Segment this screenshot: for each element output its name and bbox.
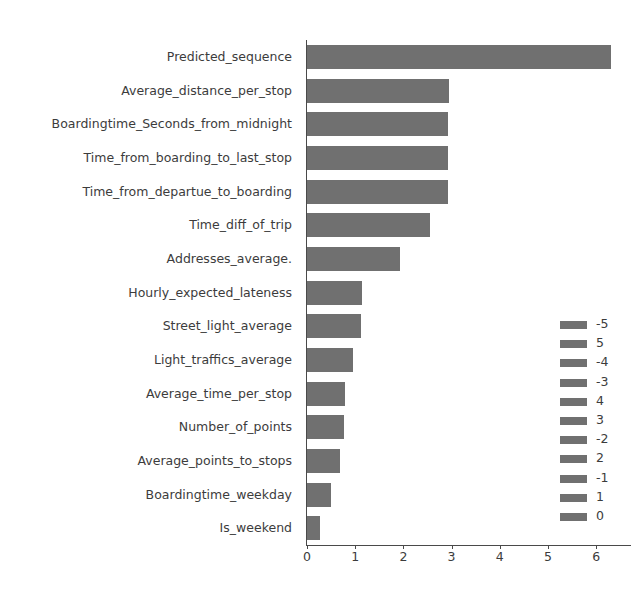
legend-label: -2 <box>596 432 608 446</box>
bar-row <box>307 40 611 74</box>
bar-chart-figure: Predicted_sequenceAverage_distance_per_s… <box>0 0 640 596</box>
category-label: Addresses_average. <box>167 253 292 266</box>
category-label: Boardingtime_Seconds_from_midnight <box>52 118 292 131</box>
bar <box>307 516 320 540</box>
bar <box>307 314 361 338</box>
x-tick-label: 0 <box>303 551 311 564</box>
bar <box>307 79 449 103</box>
legend-swatch <box>560 513 587 521</box>
legend-swatch <box>560 359 587 367</box>
bar <box>307 45 611 69</box>
category-label: Average_time_per_stop <box>146 388 292 401</box>
legend-label: -4 <box>596 355 608 369</box>
bar-row <box>307 175 611 209</box>
legend-item: 4 <box>560 394 634 413</box>
legend-label: 1 <box>596 490 604 504</box>
legend-item: 2 <box>560 451 634 470</box>
legend-label: 5 <box>596 336 604 350</box>
legend-item: 1 <box>560 490 634 509</box>
category-label: Light_traffics_average <box>154 354 292 367</box>
x-axis-ticks: 0123456 <box>0 545 640 571</box>
bar <box>307 146 448 170</box>
category-label: Street_light_average <box>163 320 292 333</box>
legend-swatch <box>560 494 587 502</box>
legend-swatch <box>560 436 587 444</box>
bar-row <box>307 242 611 276</box>
bar-row <box>307 74 611 108</box>
legend-swatch <box>560 398 587 406</box>
bar <box>307 348 353 372</box>
x-tick-label: 4 <box>496 551 504 564</box>
bar-row <box>307 107 611 141</box>
category-label: Is_weekend <box>220 522 292 535</box>
legend-item: -2 <box>560 432 634 451</box>
bar <box>307 180 448 204</box>
bar-row <box>307 208 611 242</box>
category-label: Boardingtime_weekday <box>146 489 292 502</box>
x-tick-label: 2 <box>399 551 407 564</box>
bar-row <box>307 141 611 175</box>
legend-item: -5 <box>560 317 634 336</box>
category-label: Number_of_points <box>179 421 292 434</box>
category-label: Time_from_departue_to_boarding <box>82 186 292 199</box>
category-label: Predicted_sequence <box>167 51 292 64</box>
legend-label: 2 <box>596 451 604 465</box>
legend-item: -4 <box>560 355 634 374</box>
legend-swatch <box>560 379 587 387</box>
legend-swatch <box>560 321 587 329</box>
x-tick-label: 1 <box>351 551 359 564</box>
x-tick-label: 5 <box>544 551 552 564</box>
x-tick-label: 3 <box>448 551 456 564</box>
legend-swatch <box>560 455 587 463</box>
category-label: Hourly_expected_lateness <box>128 287 292 300</box>
legend-item: -3 <box>560 375 634 394</box>
legend-label: -5 <box>596 317 608 331</box>
bar <box>307 483 331 507</box>
bar <box>307 449 340 473</box>
legend-swatch <box>560 417 587 425</box>
category-label: Average_distance_per_stop <box>121 85 292 98</box>
bar <box>307 415 344 439</box>
legend-item: 3 <box>560 413 634 432</box>
category-label: Time_diff_of_trip <box>189 219 292 232</box>
x-tick-label: 6 <box>592 551 600 564</box>
legend-swatch <box>560 475 587 483</box>
bar <box>307 382 345 406</box>
legend-label: -3 <box>596 375 608 389</box>
bar <box>307 247 400 271</box>
chart-legend: -55-4-343-22-110 <box>560 317 634 528</box>
bar <box>307 281 362 305</box>
legend-label: 4 <box>596 394 604 408</box>
legend-label: 3 <box>596 413 604 427</box>
legend-item: -1 <box>560 471 634 490</box>
legend-label: -1 <box>596 471 608 485</box>
legend-swatch <box>560 340 587 348</box>
category-label: Average_points_to_stops <box>137 455 292 468</box>
category-label: Time_from_boarding_to_last_stop <box>84 152 292 165</box>
legend-item: 5 <box>560 336 634 355</box>
legend-item: 0 <box>560 509 634 528</box>
legend-label: 0 <box>596 509 604 523</box>
bar <box>307 213 430 237</box>
bar <box>307 112 448 136</box>
bar-row <box>307 276 611 310</box>
category-axis-labels: Predicted_sequenceAverage_distance_per_s… <box>0 40 300 546</box>
